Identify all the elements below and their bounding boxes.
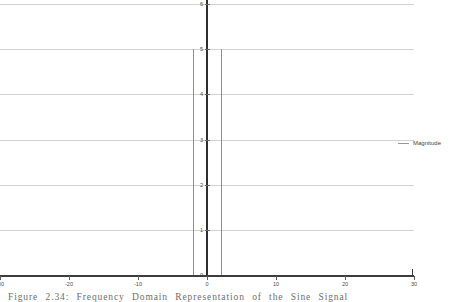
x-tick-mark (207, 276, 208, 280)
y-tick-label: 2 (193, 182, 203, 188)
x-tick-label: 0 (195, 281, 219, 288)
impulse-bar (193, 49, 194, 275)
y-tick-mark (205, 140, 210, 141)
y-axis-line (206, 0, 208, 276)
x-tick-label: -10 (126, 281, 150, 288)
figure-container: 0123456 -30-20-100102030 Magnitude Figur… (0, 0, 458, 302)
plot-area: 0123456 -30-20-100102030 (0, 0, 414, 276)
x-tick-label: -30 (0, 281, 12, 288)
y-tick-mark (205, 4, 210, 5)
x-tick-label: 20 (333, 281, 357, 288)
legend: Magnitude (398, 139, 441, 147)
x-tick-mark (69, 276, 70, 280)
y-tick-mark (205, 185, 210, 186)
figure-caption: Figure 2.34: Frequency Domain Representa… (8, 292, 448, 302)
impulse-bar (221, 49, 222, 275)
y-tick-mark (205, 94, 210, 95)
x-tick-mark (276, 276, 277, 280)
legend-label-magnitude: Magnitude (413, 139, 441, 147)
x-tick-mark (138, 276, 139, 280)
magnitude-line-swatch (398, 143, 409, 144)
y-tick-label: 4 (193, 91, 203, 97)
y-tick-mark (205, 49, 210, 50)
x-tick-label: 10 (264, 281, 288, 288)
y-tick-label: 1 (193, 227, 203, 233)
x-tick-mark (0, 276, 1, 280)
x-tick-label: 30 (402, 281, 426, 288)
x-tick-mark (345, 276, 346, 280)
y-tick-mark (205, 230, 210, 231)
y-tick-label: 6 (193, 1, 203, 7)
y-tick-label: 5 (193, 46, 203, 52)
x-tick-mark (414, 276, 415, 280)
x-tick-label: -20 (57, 281, 81, 288)
y-tick-label: 3 (193, 137, 203, 143)
